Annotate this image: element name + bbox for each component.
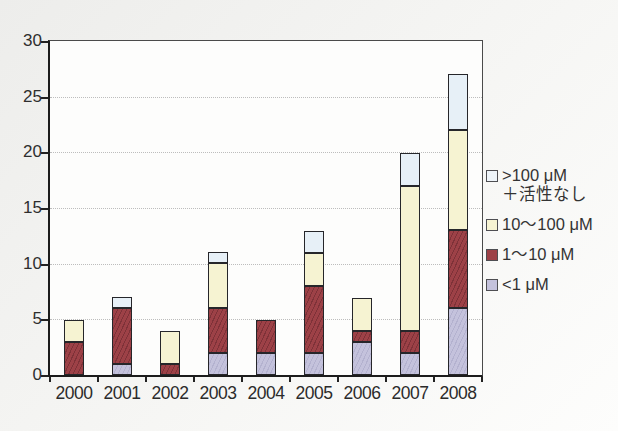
bar-2001	[112, 297, 132, 375]
x-tick-1	[97, 377, 99, 382]
legend-swatch-2	[486, 249, 498, 261]
bar-2004	[256, 320, 276, 375]
y-tick-0	[41, 375, 48, 377]
y-axis-tick-label: 10	[4, 254, 42, 274]
x-axis-label-2004: 2004	[240, 383, 292, 404]
gridline-25	[50, 97, 482, 98]
legend-item-gt100um: >100 μM＋活性なし	[486, 166, 593, 204]
legend-item-1-10um: 1～10 μM	[486, 245, 593, 264]
bar-2006	[352, 298, 372, 375]
x-axis-label-2000: 2000	[48, 383, 100, 404]
bar-segment-2006-series0	[352, 342, 372, 375]
bar-segment-2008-series2	[448, 130, 468, 230]
x-tick-8	[433, 377, 435, 382]
y-axis-tick-label: 25	[4, 87, 42, 107]
x-tick-4	[241, 377, 243, 382]
y-axis-tick-label: 20	[4, 142, 42, 162]
legend-label: 10～100 μM	[502, 215, 593, 234]
x-tick-6	[337, 377, 339, 382]
legend-swatch-0	[486, 170, 498, 182]
bar-segment-2007-series0	[400, 353, 420, 375]
bar-segment-2004-series1	[256, 320, 276, 353]
bar-2002	[160, 331, 180, 375]
legend-label: <1 μM	[502, 275, 549, 294]
bar-segment-2007-series1	[400, 331, 420, 353]
y-axis-tick-label: 5	[4, 309, 42, 329]
legend-label: >100 μM＋活性なし	[502, 166, 587, 204]
bar-segment-2003-series2	[208, 263, 228, 308]
bar-segment-2007-series2	[400, 186, 420, 331]
bar-segment-2008-series0	[448, 308, 468, 375]
x-axis-label-2002: 2002	[144, 383, 196, 404]
bar-segment-2008-series3	[448, 74, 468, 130]
bar-2005	[304, 231, 324, 375]
bar-segment-2004-series0	[256, 353, 276, 375]
y-tick-30	[41, 41, 48, 43]
bar-2008	[448, 74, 468, 375]
y-tick-5	[41, 319, 48, 321]
y-tick-10	[41, 264, 48, 266]
legend-label-line: ＋活性なし	[502, 185, 587, 204]
bar-2003	[208, 252, 228, 375]
legend-label-line: >100 μM	[502, 166, 587, 185]
x-tick-9	[481, 377, 483, 382]
y-axis-tick-label: 30	[4, 31, 42, 51]
bar-segment-2003-series0	[208, 353, 228, 375]
x-tick-0	[49, 377, 51, 382]
bar-segment-2005-series2	[304, 253, 324, 286]
y-axis-tick-label: 0	[4, 365, 42, 385]
y-tick-20	[41, 152, 48, 154]
bar-segment-2001-series1	[112, 308, 132, 364]
bar-segment-2003-series3	[208, 252, 228, 263]
x-axis-label-2005: 2005	[288, 383, 340, 404]
bar-segment-2007-series3	[400, 153, 420, 186]
legend-label: 1～10 μM	[502, 245, 574, 264]
bar-segment-2000-series1	[64, 342, 84, 375]
bar-segment-2003-series1	[208, 308, 228, 353]
legend: >100 μM＋活性なし10～100 μM1～10 μM<1 μM	[486, 166, 593, 294]
x-tick-3	[193, 377, 195, 382]
bar-segment-2001-series0	[112, 364, 132, 375]
x-axis-label-2006: 2006	[336, 383, 388, 404]
bar-segment-2005-series0	[304, 353, 324, 375]
legend-item-10-100um: 10～100 μM	[486, 215, 593, 234]
chart-canvas: 051015202530 200020012002200320042005200…	[0, 0, 618, 431]
x-tick-2	[145, 377, 147, 382]
x-tick-7	[385, 377, 387, 382]
bar-segment-2006-series1	[352, 331, 372, 342]
legend-swatch-3	[486, 279, 498, 291]
bar-segment-2006-series2	[352, 298, 372, 331]
plot-area	[48, 40, 483, 377]
x-axis-label-2008: 2008	[432, 383, 484, 404]
legend-label-line: 1～10 μM	[502, 245, 574, 264]
bar-segment-2005-series3	[304, 231, 324, 253]
x-axis-label-2001: 2001	[96, 383, 148, 404]
y-tick-25	[41, 97, 48, 99]
bar-segment-2008-series1	[448, 230, 468, 308]
bar-segment-2005-series1	[304, 286, 324, 353]
legend-swatch-1	[486, 219, 498, 231]
legend-label-line: 10～100 μM	[502, 215, 593, 234]
bar-segment-2002-series1	[160, 364, 180, 375]
y-tick-15	[41, 208, 48, 210]
y-axis-tick-label: 15	[4, 198, 42, 218]
legend-label-line: <1 μM	[502, 275, 549, 294]
bar-segment-2000-series2	[64, 320, 84, 342]
bar-segment-2001-series3	[112, 297, 132, 308]
bar-2007	[400, 153, 420, 375]
bar-segment-2002-series2	[160, 331, 180, 364]
x-axis-label-2007: 2007	[384, 383, 436, 404]
bar-2000	[64, 320, 84, 375]
x-tick-5	[289, 377, 291, 382]
x-axis-label-2003: 2003	[192, 383, 244, 404]
legend-item-lt1um: <1 μM	[486, 275, 593, 294]
